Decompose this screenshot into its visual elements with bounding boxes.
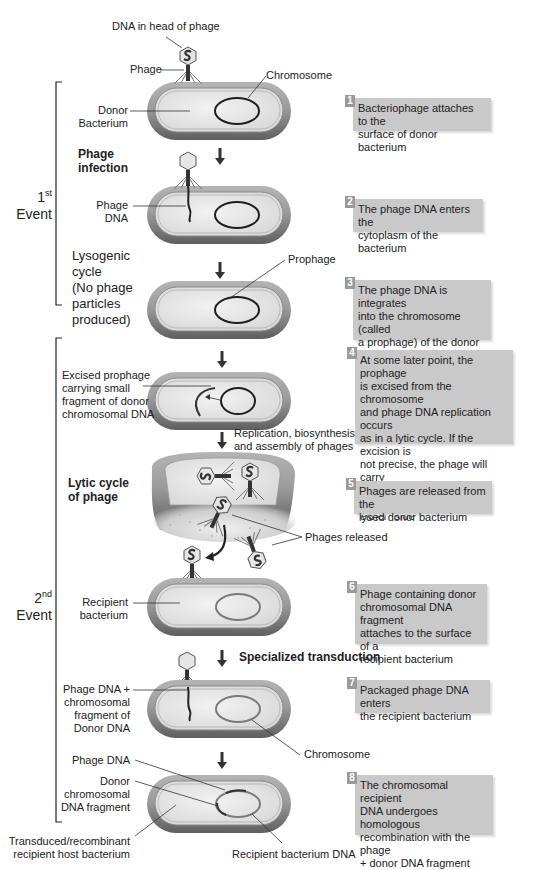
event-text: Event (16, 607, 52, 623)
event-2-label: 2nd Event (4, 586, 52, 624)
label-transduced-host: Transduced/recombinant recipient host ba… (4, 835, 130, 861)
arrow-down-icon (215, 262, 225, 279)
step-number: 8 (347, 772, 357, 784)
label-donor-chrom-fragment: Donor chromosomal DNA fragment (50, 775, 130, 814)
arrow-down-icon (217, 650, 227, 667)
label-replication: Replication, biosynthesis, and assembly … (234, 427, 358, 453)
label-chromosome-top: Chromosome (266, 69, 332, 82)
step-number: 7 (347, 677, 357, 689)
arrow-down-icon (215, 148, 225, 165)
label-phage-dna-bottom: Phage DNA (50, 754, 130, 767)
event-1-bracket (56, 82, 62, 305)
phage-icon (174, 47, 202, 84)
label-excised-prophage: Excised prophage carrying small fragment… (62, 369, 154, 421)
step-box-6: 6 Phage containing donor chromosomal DNA… (355, 584, 487, 644)
step-number: 1 (345, 95, 355, 107)
recipient-bacterium-6 (147, 578, 291, 636)
step-text: Bacteriophage attaches to the surface of… (358, 102, 485, 154)
step-number: 2 (345, 196, 355, 208)
phage-infecting-icon (174, 152, 202, 189)
label-phage-infection: Phage infection (78, 147, 128, 175)
step-text: The phage DNA enters the cytoplasm of th… (358, 203, 477, 255)
step-text: The chromosomal recipient DNA undergoes … (360, 779, 487, 870)
label-lysogenic-cycle: Lysogenic cycle (No phage particles prod… (72, 248, 133, 328)
event-1-label: 1st Event (4, 185, 52, 223)
label-phage-dna: Phage DNA (80, 199, 128, 225)
label-phage-dna-chrom-fragment: Phage DNA + chromosomal fragment of Dono… (50, 683, 130, 735)
recombinant-bacterium-8 (147, 775, 291, 833)
label-recipient-bacterium-dna: Recipient bacterium DNA (232, 848, 356, 861)
label-prophage: Prophage (288, 253, 336, 266)
phage-icon (178, 546, 206, 583)
label-lytic-cycle: Lytic cycle of phage (68, 476, 129, 504)
step-box-1: 1 Bacteriophage attaches to the surface … (353, 98, 491, 131)
donor-bacterium-3 (147, 281, 291, 339)
step-box-5: 5 Phages are released from the lysed don… (354, 481, 492, 514)
step-text: Packaged phage DNA enters the recipient … (360, 684, 484, 723)
step-box-4: 4 At some later point, the prophage is e… (355, 350, 513, 444)
label-donor-bacterium: Donor Bacterium (70, 104, 128, 130)
event-ordinal: st (45, 188, 52, 198)
step-number: 4 (347, 347, 357, 359)
arrow-down-icon (217, 752, 227, 769)
step-number: 6 (347, 581, 357, 593)
step-box-3: 3 The phage DNA is integrates into the c… (353, 280, 491, 340)
arrow-down-icon (217, 351, 227, 368)
step-text: Phages are released from the lysed donor… (359, 485, 486, 524)
recipient-bacterium-7 (147, 680, 291, 738)
label-recipient-bacterium: Recipient bacterium (60, 596, 128, 622)
event-number: 1 (37, 189, 45, 205)
step-number: 5 (346, 478, 356, 490)
step-box-7: 7 Packaged phage DNA enters the recipien… (355, 680, 490, 713)
donor-bacterium-2 (147, 186, 291, 244)
arrow-down-icon (217, 432, 227, 449)
step-box-8: 8 The chromosomal recipient DNA undergoe… (355, 775, 493, 835)
step-number: 3 (345, 277, 355, 289)
step-text: Phage containing donor chromosomal DNA f… (360, 588, 481, 666)
event-text: Event (16, 206, 52, 222)
step-box-2: 2 The phage DNA enters the cytoplasm of … (353, 199, 483, 232)
donor-bacterium-4 (147, 372, 291, 430)
label-dna-in-head: DNA in head of phage (112, 20, 220, 33)
event-number: 2 (34, 590, 42, 606)
label-chromosome-bottom: Chromosome (304, 748, 370, 761)
label-phage: Phage (130, 63, 162, 76)
label-phages-released: Phages released (305, 531, 388, 544)
event-ordinal: nd (42, 589, 52, 599)
